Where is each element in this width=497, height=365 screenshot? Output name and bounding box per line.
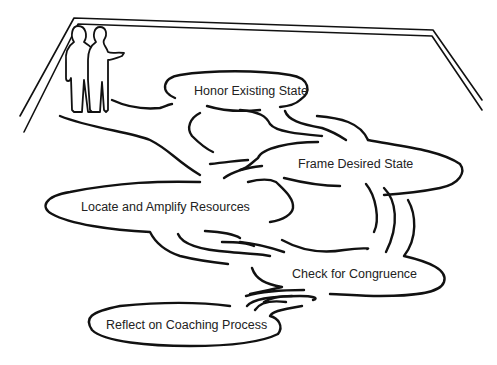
stage-label-reflect-on-coaching-process: Reflect on Coaching Process (106, 318, 267, 332)
stage-label-check-for-congruence: Check for Congruence (292, 267, 417, 281)
two-people-figures (66, 26, 124, 112)
stage-label-locate-and-amplify-resources: Locate and Amplify Resources (81, 200, 250, 214)
coaching-process-diagram: Honor Existing State Frame Desired State… (0, 0, 497, 365)
stage-label-honor-existing-state: Honor Existing State (194, 84, 308, 98)
stage-label-frame-desired-state: Frame Desired State (298, 157, 413, 171)
